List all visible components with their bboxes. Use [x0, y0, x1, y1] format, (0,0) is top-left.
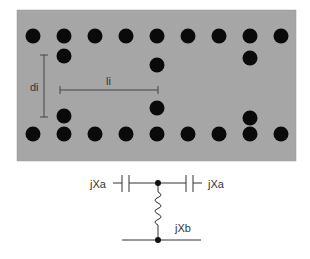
- via-post-top: [57, 29, 72, 44]
- via-post-top: [88, 29, 103, 44]
- via-post-top: [26, 29, 41, 44]
- via-post-bottom: [119, 127, 134, 142]
- via-post-bottom: [57, 127, 72, 142]
- via-post-inner: [57, 49, 72, 64]
- via-post-bottom: [181, 127, 196, 142]
- label-jxb: jXb: [174, 222, 191, 234]
- via-post-top: [119, 29, 134, 44]
- figure: di li jXa jXa jXb: [0, 0, 310, 259]
- waveguide-panel: di li: [17, 10, 296, 161]
- via-post-bottom: [243, 127, 258, 142]
- via-post-bottom: [274, 127, 289, 142]
- via-post-inner: [150, 101, 165, 116]
- li-label: li: [106, 75, 111, 87]
- via-post-inner: [243, 111, 258, 126]
- label-jxa-right: jXa: [207, 178, 225, 190]
- via-post-top: [181, 29, 196, 44]
- via-post-inner: [243, 51, 258, 66]
- di-label: di: [30, 81, 39, 93]
- via-post-bottom: [150, 127, 165, 142]
- inductor-coil: [155, 192, 161, 225]
- via-post-top: [274, 29, 289, 44]
- via-post-top: [150, 29, 165, 44]
- via-post-inner: [150, 58, 165, 73]
- via-post-inner: [57, 109, 72, 124]
- via-post-bottom: [212, 127, 227, 142]
- label-jxa-left: jXa: [89, 178, 107, 190]
- via-post-top: [212, 29, 227, 44]
- via-post-top: [243, 29, 258, 44]
- junction-dot-bottom: [155, 237, 161, 243]
- junction-dot-top: [155, 180, 161, 186]
- via-post-bottom: [88, 127, 103, 142]
- via-post-bottom: [26, 127, 41, 142]
